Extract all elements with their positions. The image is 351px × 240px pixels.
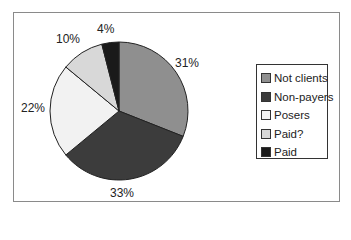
legend-swatch-icon [261, 147, 271, 157]
legend-swatch-icon [261, 73, 271, 83]
label-posers: 22% [21, 101, 45, 115]
legend-item-paid: Paid [261, 143, 327, 162]
legend-item-posers: Posers [261, 106, 327, 125]
legend-swatch-icon [261, 110, 271, 120]
label-not-clients: 31% [175, 56, 199, 70]
legend-label: Posers [274, 109, 310, 121]
legend-item-not-clients: Not clients [261, 69, 327, 88]
legend-item-paid-question: Paid? [261, 125, 327, 144]
legend-label: Not clients [274, 72, 328, 84]
legend-swatch-icon [261, 129, 271, 139]
legend-item-non-payers: Non-payers [261, 88, 327, 107]
label-paid: 4% [97, 22, 114, 36]
label-paid-question: 10% [56, 32, 80, 46]
legend-label: Paid? [274, 128, 303, 140]
legend-label: Paid [274, 146, 297, 158]
legend-swatch-icon [261, 92, 271, 102]
legend: Not clients Non-payers Posers Paid? Paid [256, 64, 328, 159]
legend-label: Non-payers [274, 91, 333, 103]
label-non-payers: 33% [110, 186, 134, 200]
